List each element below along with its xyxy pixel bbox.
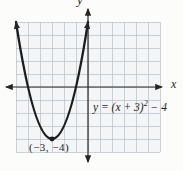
parabola-plot-canvas [0,0,183,171]
function-graph-panel: y x y = (x + 3)2 − 4 (−3, −4) [0,0,183,171]
y-axis-label: y [77,0,83,7]
equation-tail: − 4 [148,101,167,113]
equation-label: y = (x + 3)2 − 4 [93,101,167,114]
equation-base: y = (x + 3) [93,101,144,113]
vertex-label: (−3, −4) [29,141,69,153]
x-axis-label: x [171,78,176,91]
